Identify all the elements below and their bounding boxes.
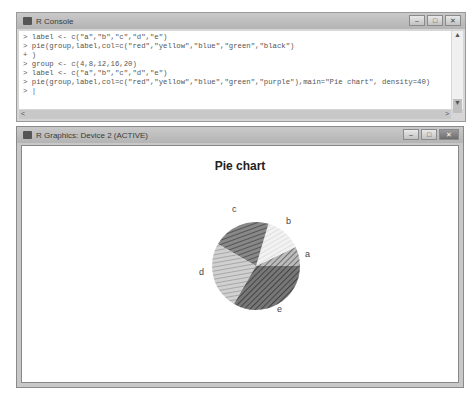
vertical-scrollbar[interactable]: ▲ ▼ [452, 31, 463, 109]
slice-label-a: a [305, 249, 310, 259]
scroll-down-arrow-icon[interactable]: ▼ [452, 99, 463, 109]
slice-label-c: c [232, 204, 237, 214]
horizontal-scrollbar[interactable]: < > [19, 110, 451, 119]
maximize-button[interactable]: □ [421, 129, 437, 140]
minimize-button[interactable]: – [403, 129, 419, 140]
console-line: + ) [23, 51, 447, 60]
scroll-right-arrow-icon[interactable]: > [445, 110, 449, 117]
r-graphics-icon [23, 131, 32, 139]
plot-area: Pie chart a b c d e [21, 145, 459, 383]
slice-label-e: e [277, 304, 282, 314]
graphics-titlebar[interactable]: R Graphics: Device 2 (ACTIVE) – □ ✕ [17, 127, 463, 143]
close-button[interactable]: ✕ [439, 129, 459, 140]
console-line: > label <- c("a","b","c","d","e") [23, 33, 447, 42]
r-console-window: R Console – □ ✕ > label <- c("a","b","c"… [16, 12, 466, 122]
console-titlebar[interactable]: R Console – □ ✕ [17, 13, 465, 29]
console-prompt[interactable]: > | [23, 87, 447, 96]
slice-label-d: d [199, 267, 204, 277]
r-graphics-window: R Graphics: Device 2 (ACTIVE) – □ ✕ Pie … [16, 126, 464, 388]
scroll-left-arrow-icon[interactable]: < [21, 110, 25, 117]
close-button[interactable]: ✕ [445, 15, 461, 26]
console-line: > label <- c("a","b","c","d","e") [23, 69, 447, 78]
minimize-button[interactable]: – [409, 15, 425, 26]
console-line: > pie(group,label,col=c("red","yellow","… [23, 78, 447, 87]
pie-chart [22, 146, 462, 386]
slice-label-b: b [286, 216, 291, 226]
console-line: > group <- c(4,8,12,16,20) [23, 60, 447, 69]
maximize-button[interactable]: □ [427, 15, 443, 26]
scroll-up-arrow-icon[interactable]: ▲ [452, 31, 463, 41]
graphics-title: R Graphics: Device 2 (ACTIVE) [36, 131, 148, 140]
console-line: > pie(group,label,col=c("red","yellow","… [23, 42, 447, 51]
console-output[interactable]: > label <- c("a","b","c","d","e") > pie(… [19, 31, 451, 109]
r-app-icon [23, 17, 32, 25]
console-title: R Console [36, 17, 73, 26]
